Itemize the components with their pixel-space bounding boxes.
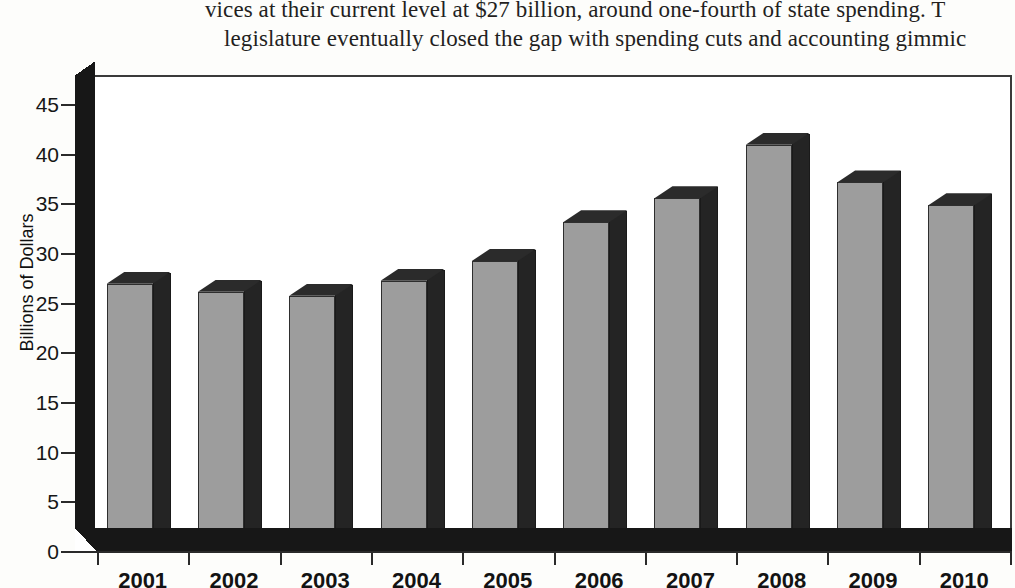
- bar-front-face: [837, 182, 883, 552]
- y-axis-tick: [61, 501, 75, 503]
- bar-column: [381, 269, 445, 552]
- x-axis-tick: [188, 552, 190, 565]
- bar-chart: 051015202530354045 Billions of Dollars 2…: [0, 62, 1015, 588]
- y-axis-tick-label: 10: [21, 441, 59, 465]
- bar-side-face: [244, 281, 262, 541]
- y-axis-tick: [61, 352, 75, 354]
- bar-column: [472, 249, 536, 552]
- chart-floor: [75, 528, 1012, 552]
- bar-side-face: [974, 194, 992, 541]
- page-body-text: vices at their current level at $27 bill…: [0, 0, 1015, 62]
- bar-column: [107, 272, 171, 552]
- bar-side-face: [883, 171, 901, 541]
- x-axis-tick: [736, 552, 738, 565]
- x-axis-tick: [97, 552, 99, 565]
- bar-side-face: [609, 211, 627, 541]
- bar-column: [563, 210, 627, 552]
- y-axis-tick: [61, 303, 75, 305]
- x-axis-tick: [280, 552, 282, 565]
- chart-floor-bevel: [75, 528, 97, 552]
- y-axis-tick: [61, 452, 75, 454]
- bar-side-face: [427, 270, 445, 541]
- y-axis-tick: [61, 551, 75, 553]
- x-axis-tick: [919, 552, 921, 565]
- y-axis-tick: [61, 253, 75, 255]
- bar-front-face: [289, 296, 335, 552]
- y-axis-tick-label: 45: [21, 93, 59, 117]
- bar-column: [654, 186, 718, 552]
- x-axis-tick: [1010, 552, 1012, 565]
- x-axis-tick: [462, 552, 464, 565]
- y-axis-tick-label: 40: [21, 143, 59, 167]
- y-axis-tick: [61, 402, 75, 404]
- x-axis-tick: [827, 552, 829, 565]
- page-text-line-2: legislature eventually closed the gap wi…: [224, 26, 966, 52]
- bar-side-face: [792, 134, 810, 541]
- chart-left-wall: [75, 75, 95, 552]
- bar-column: [837, 170, 901, 552]
- bar-front-face: [928, 205, 974, 552]
- x-axis-tick: [554, 552, 556, 565]
- bar-front-face: [746, 145, 792, 552]
- y-axis-tick-label: 5: [21, 490, 59, 514]
- y-axis-tick: [61, 203, 75, 205]
- y-axis-tick: [61, 154, 75, 156]
- bar-column: [928, 193, 992, 552]
- chart-wall-bevel: [75, 62, 95, 76]
- bar-side-face: [153, 273, 171, 541]
- bar-side-face: [700, 187, 718, 541]
- bar-front-face: [563, 222, 609, 552]
- y-axis-tick: [61, 104, 75, 106]
- bar-front-face: [381, 281, 427, 552]
- bar-column: [289, 284, 353, 552]
- bar-side-face: [518, 250, 536, 541]
- page-text-line-1: vices at their current level at $27 bill…: [205, 0, 945, 23]
- bar-front-face: [198, 292, 244, 552]
- bar-front-face: [472, 261, 518, 552]
- x-axis-tick: [371, 552, 373, 565]
- y-axis-tick-label: 0: [21, 540, 59, 564]
- bar-column: [746, 133, 810, 552]
- y-axis-title: Billions of Dollars: [17, 168, 38, 398]
- x-axis-tick: [645, 552, 647, 565]
- bar-front-face: [107, 284, 153, 552]
- x-axis-line: [75, 551, 1012, 553]
- x-axis-tick-label: 2010: [909, 568, 1015, 588]
- bar-column: [198, 280, 262, 552]
- bar-side-face: [335, 285, 353, 541]
- bar-front-face: [654, 198, 700, 552]
